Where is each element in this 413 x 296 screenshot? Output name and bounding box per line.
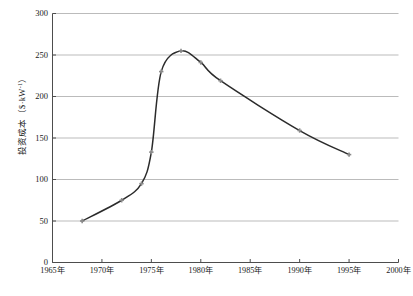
x-axis-tick-label: 1980年 — [189, 266, 213, 276]
chart-figure: 投资成本（$·kW-1） 050100150200250300 1965年197… — [0, 0, 413, 296]
data-point-marker — [159, 69, 163, 73]
y-axis-tick-label: 50 — [22, 217, 48, 226]
x-axis-tick-label: 1965年 — [40, 266, 64, 276]
x-axis-tick-label: 1985年 — [238, 266, 262, 276]
x-axis-tick-labels: 1965年1970年1975年1980年1985年1990年1995年2000年 — [0, 266, 413, 280]
x-axis-tick-label: 1990年 — [287, 266, 311, 276]
x-axis-tick-label: 1995年 — [337, 266, 361, 276]
y-axis-tick-labels: 050100150200250300 — [22, 0, 48, 296]
data-line-series-1 — [82, 51, 349, 221]
plot-area — [0, 0, 413, 296]
y-axis-tick-label: 300 — [22, 9, 48, 18]
y-axis-tick-label: 150 — [22, 134, 48, 143]
data-point-marker — [179, 49, 183, 53]
data-point-marker — [149, 150, 153, 154]
y-axis-tick-marks — [53, 14, 57, 263]
y-axis-tick-label: 200 — [22, 92, 48, 101]
y-axis-tick-label: 250 — [22, 51, 48, 60]
y-axis-tick-label: 100 — [22, 175, 48, 184]
x-axis-tick-label: 1975年 — [139, 266, 163, 276]
gridlines — [53, 14, 399, 222]
x-axis-tick-label: 2000年 — [386, 266, 410, 276]
x-axis-tick-label: 1970年 — [90, 266, 114, 276]
x-axis-tick-marks — [53, 259, 399, 263]
